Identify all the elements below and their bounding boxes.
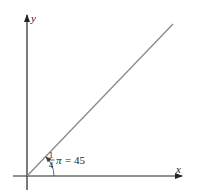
fraction-numerator: 1 xyxy=(49,150,54,160)
y-axis-label: y xyxy=(30,12,36,24)
fraction-denominator: 4 xyxy=(49,160,54,170)
angle-value: = 45 xyxy=(65,154,85,166)
angle-diagram: y x 1 4 π = 45 xyxy=(0,0,199,195)
x-axis-label: x xyxy=(175,163,181,175)
angle-label: 1 4 π = 45 xyxy=(48,150,86,170)
pi-symbol: π xyxy=(56,154,62,166)
